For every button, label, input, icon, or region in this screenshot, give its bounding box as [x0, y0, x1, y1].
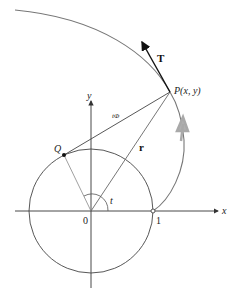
- point-q: [62, 153, 66, 157]
- label-origin: 0: [83, 215, 88, 226]
- label-tangent: T: [157, 52, 165, 64]
- label-point-p: P(x, y): [173, 85, 201, 97]
- involute-diagram: T P(x, y) Q r t 0 1 x y tΦ: [0, 0, 234, 297]
- label-x-axis: x: [221, 205, 227, 216]
- angle-arc-q: [84, 194, 100, 196]
- tangent-vector: [142, 42, 170, 92]
- label-segment: tΦ: [112, 112, 120, 120]
- angle-arc-t: [100, 196, 108, 211]
- label-vector-r: r: [139, 141, 144, 153]
- label-unit: 1: [156, 215, 161, 226]
- involute-curve: [15, 10, 184, 211]
- label-y-axis: y: [86, 90, 92, 101]
- segment-qp: [64, 92, 170, 155]
- direction-arrow-icon: [177, 117, 188, 141]
- label-point-q: Q: [54, 143, 62, 154]
- vector-r: [91, 92, 170, 211]
- radius-oq: [64, 155, 91, 211]
- label-angle-t: t: [110, 195, 113, 206]
- point-unit: [151, 209, 155, 213]
